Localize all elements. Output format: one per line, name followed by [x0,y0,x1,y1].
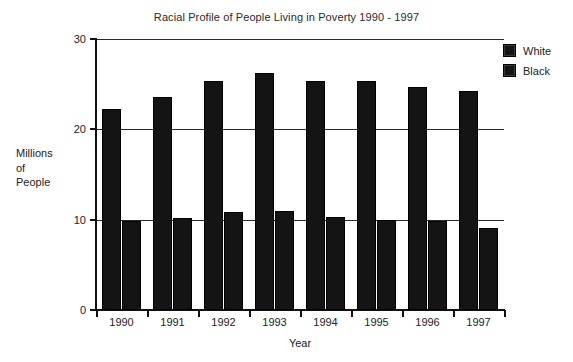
y-axis-tick-label: 30 [74,33,86,45]
bar-black-1991 [173,218,192,310]
bar-cluster [147,39,198,310]
bar-white-1996 [408,87,427,310]
y-axis-tick-label: 10 [74,214,86,226]
bar-black-1997 [479,228,498,310]
bar-white-1990 [102,109,121,310]
y-axis-title-line-2: People [16,175,53,190]
x-axis-label-1992: 1992 [211,316,235,328]
bar-black-1993 [275,211,294,310]
bar-black-1996 [428,221,447,310]
bar-black-1994 [326,217,345,310]
y-axis-tick-label: 0 [80,304,86,316]
legend-swatch-black [503,64,516,77]
bar-white-1991 [153,97,172,310]
bar-black-1995 [377,220,396,310]
chart-title: Racial Profile of People Living in Pover… [0,11,573,23]
legend-label-black: Black [523,65,550,77]
legend-swatch-white [503,44,516,57]
plot-area: 0102030 [96,39,504,310]
x-axis-label-1995: 1995 [364,316,388,328]
bar-black-1992 [224,212,243,310]
y-axis-tick-label: 20 [74,123,86,135]
x-axis-tick-labels: 19901991199219931994199519961997 [96,316,504,332]
y-axis-title: MillionsofPeople [16,146,53,190]
x-axis-label-1994: 1994 [313,316,337,328]
bar-cluster [351,39,402,310]
bar-white-1997 [459,91,478,311]
bar-white-1993 [255,73,274,310]
x-axis-label-1991: 1991 [160,316,184,328]
bar-white-1994 [306,81,325,310]
bar-cluster [198,39,249,310]
x-axis-label-1993: 1993 [262,316,286,328]
bar-cluster [249,39,300,310]
x-axis-title: Year [96,337,504,349]
bar-white-1992 [204,81,223,310]
chart-legend: WhiteBlack [503,44,551,77]
bar-chart: Racial Profile of People Living in Pover… [0,0,573,362]
x-axis-tick [504,310,506,317]
bar-cluster [453,39,504,310]
legend-item-white: White [503,44,551,57]
x-axis-label-1990: 1990 [109,316,133,328]
bar-cluster [300,39,351,310]
x-axis-label-1997: 1997 [466,316,490,328]
y-axis-title-line-1: of [16,161,53,176]
y-axis-title-line-0: Millions [16,146,53,161]
legend-item-black: Black [503,64,551,77]
legend-label-white: White [523,45,551,57]
bar-cluster [402,39,453,310]
bar-white-1995 [357,81,376,310]
bar-cluster [96,39,147,310]
bar-series-group [96,39,504,310]
bar-black-1990 [122,221,141,310]
x-axis-label-1996: 1996 [415,316,439,328]
